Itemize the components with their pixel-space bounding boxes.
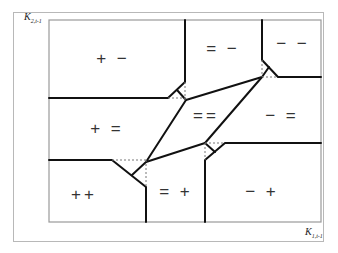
region-minus-plus: − + [245,183,279,200]
region-equal-equal: == [193,107,219,124]
y-axis-label-base: K [24,11,31,22]
x-axis-label-base: K [305,226,312,237]
x-axis-label: K1,t-1 [305,227,323,239]
y-axis-label-sub: 2,t-1 [31,18,42,24]
region-minus-equal: − = [265,107,299,124]
region-minus-minus: − − [276,35,310,52]
region-equal-plus: = + [159,183,193,200]
y-axis-label: K2,t-1 [24,12,42,24]
region-plus-equal: + = [90,120,124,137]
region-plus-minus: + − [96,50,130,67]
region-plus-plus: ++ [71,186,97,203]
x-axis-label-sub: 1,t-1 [312,233,323,239]
region-equal-minus: = − [206,40,240,57]
